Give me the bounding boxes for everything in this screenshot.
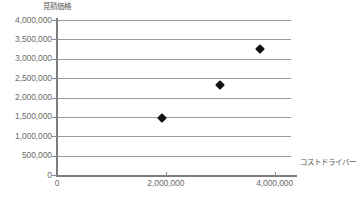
- gridline-horizontal: [57, 136, 291, 137]
- x-axis-tick-label: 0: [55, 178, 60, 188]
- gridline-horizontal: [57, 20, 291, 21]
- y-axis-tick-label: 3,500,000: [0, 35, 52, 44]
- y-axis-tick-label: 4,000,000: [0, 16, 52, 25]
- y-axis-tick-label: 1,000,000: [0, 132, 52, 141]
- gridline-horizontal: [57, 59, 291, 60]
- y-axis-tick: [52, 156, 57, 157]
- y-axis-title: 見積価格: [43, 2, 71, 11]
- y-axis-tick-label: 3,000,000: [0, 54, 52, 63]
- gridline-horizontal: [57, 78, 291, 79]
- y-axis-tick-label: 0: [0, 171, 52, 180]
- y-axis-tick-label: 500,000: [0, 151, 52, 160]
- x-axis-tick-label: 4,000,000: [256, 178, 293, 188]
- x-axis-tick: [166, 172, 167, 176]
- scatter-chart: 見積価格 コストドライバー 4,000,0003,500,0003,000,00…: [0, 0, 357, 203]
- y-axis-tick-label: 1,500,000: [0, 112, 52, 121]
- x-axis-tick-label: 2,000,000: [147, 178, 184, 188]
- y-axis-tick-label: 2,000,000: [0, 93, 52, 102]
- y-axis-tick: [52, 175, 57, 176]
- y-axis-tick: [52, 39, 57, 40]
- x-axis-title: コストドライバー: [300, 158, 356, 167]
- y-axis-tick-label: 2,500,000: [0, 74, 52, 83]
- gridline-horizontal: [57, 117, 291, 118]
- gridline-horizontal: [57, 156, 291, 157]
- figure-caption: [0, 195, 357, 203]
- y-axis-tick: [52, 59, 57, 60]
- plot-area: [57, 20, 291, 175]
- gridline-horizontal: [57, 39, 291, 40]
- x-axis-line: [56, 175, 297, 177]
- y-axis-tick: [52, 117, 57, 118]
- y-axis-tick: [52, 136, 57, 137]
- x-axis-tick: [275, 172, 276, 176]
- y-axis-tick: [52, 20, 57, 21]
- y-axis-tick: [52, 78, 57, 79]
- gridline-horizontal: [57, 98, 291, 99]
- y-axis-tick: [52, 98, 57, 99]
